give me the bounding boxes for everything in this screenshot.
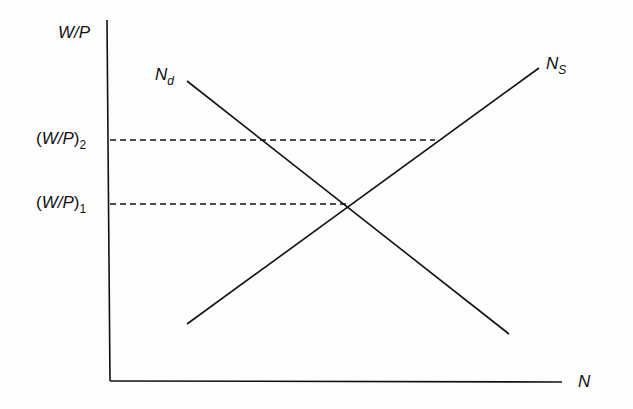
x-axis xyxy=(110,381,562,382)
labor-supply-label: NS xyxy=(546,55,566,72)
level-2-label: (W/P)2 xyxy=(36,130,86,147)
labor-demand-label: Nd xyxy=(155,66,174,83)
labor-supply-curve xyxy=(187,68,539,324)
y-axis-label: W/P xyxy=(58,24,90,41)
y-axis xyxy=(107,20,110,381)
diagram-canvas xyxy=(0,0,633,409)
level-1-label: (W/P)1 xyxy=(36,194,86,211)
x-axis-label: N xyxy=(578,373,590,390)
